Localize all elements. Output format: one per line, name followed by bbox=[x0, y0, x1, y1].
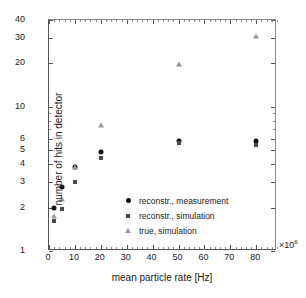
data-point-triangle bbox=[51, 213, 57, 218]
x-axis-tick-label: 20 bbox=[95, 253, 105, 262]
x-axis-title: mean particle rate [Hz] bbox=[48, 272, 276, 283]
data-point-square bbox=[177, 141, 181, 145]
x-axis-tick-label: 40 bbox=[147, 253, 157, 262]
y-axis-tick-label: 3 bbox=[20, 177, 25, 186]
x-axis-tick-label: 50 bbox=[173, 253, 183, 262]
y-axis-tick-label: 5 bbox=[20, 145, 25, 154]
x-axis-tick-label: 10 bbox=[69, 253, 79, 262]
legend-circle-icon bbox=[122, 198, 134, 203]
legend-item: reconstr., measurement bbox=[122, 193, 228, 208]
x-axis-tick-label: 30 bbox=[121, 253, 131, 262]
x-axis-multiplier: ×106 bbox=[279, 239, 298, 250]
chart-figure: number of hits in detector mean particle… bbox=[0, 0, 306, 298]
data-point-circle bbox=[98, 150, 103, 155]
data-point-square bbox=[99, 156, 103, 160]
legend-item-label: reconstr., measurement bbox=[139, 196, 228, 206]
data-point-square bbox=[254, 143, 258, 147]
chart-legend: reconstr., measurement reconstr., simula… bbox=[122, 193, 228, 238]
x-axis-multiplier-base: ×10 bbox=[279, 240, 294, 250]
data-point-square bbox=[52, 219, 56, 223]
y-axis-tick-label: 40 bbox=[15, 15, 25, 24]
y-axis-tick-label: 20 bbox=[15, 58, 25, 67]
y-axis-tick-label: 2 bbox=[20, 202, 25, 211]
y-axis-tick-label: 1 bbox=[20, 246, 25, 255]
legend-item: true, simulation bbox=[122, 223, 228, 238]
y-axis-tick-label: 30 bbox=[15, 33, 25, 42]
data-point-triangle bbox=[253, 34, 259, 39]
legend-triangle-icon bbox=[122, 228, 134, 233]
x-axis-tick-label: 60 bbox=[198, 253, 208, 262]
y-axis-tick-label: 10 bbox=[15, 101, 25, 110]
y-axis-tick-label: 6 bbox=[20, 133, 25, 142]
data-point-circle bbox=[52, 205, 57, 210]
data-point-triangle bbox=[176, 62, 182, 67]
x-axis-tick-label: 0 bbox=[45, 253, 50, 262]
legend-item-label: true, simulation bbox=[139, 226, 197, 236]
data-point-square bbox=[73, 180, 77, 184]
data-point-triangle bbox=[72, 164, 78, 169]
legend-item-label: reconstr., simulation bbox=[139, 211, 215, 221]
legend-item: reconstr., simulation bbox=[122, 208, 228, 223]
x-axis-multiplier-exponent: 6 bbox=[294, 239, 297, 245]
y-axis-title: number of hits in detector bbox=[53, 93, 64, 206]
x-axis-tick-label: 70 bbox=[224, 253, 234, 262]
legend-square-icon bbox=[122, 214, 134, 218]
data-point-square bbox=[60, 207, 64, 211]
y-axis-tick-label: 4 bbox=[20, 159, 25, 168]
x-axis-tick-label: 80 bbox=[250, 253, 260, 262]
y-axis-title-wrapper: number of hits in detector bbox=[0, 0, 18, 298]
data-point-triangle bbox=[98, 122, 104, 127]
